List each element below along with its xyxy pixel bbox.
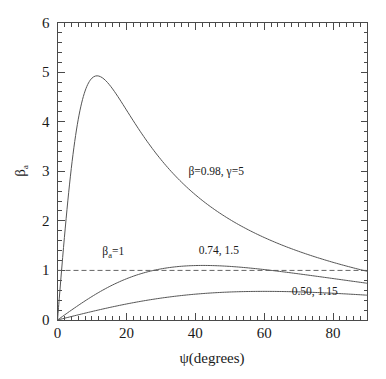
x-tick-label: 20 [119, 325, 134, 341]
data-curve [58, 76, 368, 320]
y-axis-tick-labels: 0123456 [42, 15, 50, 329]
y-axis-title-group: βa [12, 165, 30, 177]
annotation-low-curve: 0.50, 1.15 [292, 285, 338, 298]
y-tick-label: 3 [42, 163, 50, 179]
y-tick-label: 4 [42, 114, 50, 130]
figure-container: 020406080 0123456 β=0.98, γ=5 βa=1 0.74,… [0, 0, 386, 379]
x-tick-label: 60 [257, 325, 272, 341]
x-tick-label: 0 [54, 325, 62, 341]
y-tick-label: 6 [42, 15, 50, 31]
x-tick-label: 40 [188, 325, 203, 341]
annotation-main-curve: β=0.98, γ=5 [188, 165, 244, 178]
x-axis-tick-labels: 020406080 [54, 325, 341, 341]
x-tick-label: 80 [326, 325, 341, 341]
y-tick-label: 0 [42, 312, 50, 328]
y-tick-label: 1 [42, 262, 50, 278]
data-curves [58, 76, 368, 320]
apparent-velocity-chart: 020406080 0123456 β=0.98, γ=5 βa=1 0.74,… [0, 0, 386, 379]
annotation-mid-curve: 0.74, 1.5 [199, 244, 240, 257]
y-axis-title: βa [12, 165, 30, 177]
y-tick-label: 2 [42, 213, 50, 229]
annotation-reference-line: βa=1 [102, 245, 124, 260]
y-tick-label: 5 [42, 64, 50, 80]
x-axis-title: ψ(degrees) [179, 350, 244, 367]
